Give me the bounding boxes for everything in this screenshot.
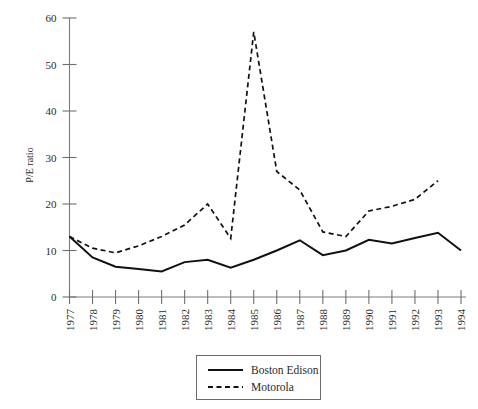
x-axis-tick-label: 1991 <box>386 309 398 331</box>
legend-label-boston-edison: Boston Edison <box>251 364 319 376</box>
y-axis-tick-label: 0 <box>51 291 57 303</box>
x-axis-tick-label: 1978 <box>87 309 99 332</box>
x-axis-tick-label: 1994 <box>455 309 467 332</box>
chart-canvas: 0102030405060 19771978197919801981198219… <box>0 0 478 409</box>
series-line-boston-edison <box>70 233 462 272</box>
y-axis-tick-label: 50 <box>46 59 58 71</box>
x-axis-tick-label: 1985 <box>248 309 260 332</box>
x-axis-tick-label: 1989 <box>340 309 352 332</box>
series-line-motorola <box>70 32 438 253</box>
x-axis-tick-label: 1980 <box>133 309 145 332</box>
x-axis-tick-label: 1983 <box>202 309 214 332</box>
pe-ratio-line-chart: 0102030405060 19771978197919801981198219… <box>0 0 478 409</box>
legend: Boston Edison Motorola <box>197 356 321 400</box>
x-axis-tick-label: 1977 <box>64 309 76 332</box>
y-axis-title: P/E ratio <box>24 147 35 182</box>
x-axis-tick-label: 1993 <box>432 309 444 332</box>
y-axis-tick-label: 30 <box>46 152 58 164</box>
x-axis-tick-label: 1979 <box>110 309 122 332</box>
y-axis-tick-label: 10 <box>46 245 58 257</box>
x-axis-tick-label: 1990 <box>363 309 375 332</box>
x-axis-tick-label: 1982 <box>179 309 191 331</box>
y-axis-tick-labels: 0102030405060 <box>46 12 58 303</box>
x-axis-tick-label: 1984 <box>225 309 237 332</box>
x-axis-tick-label: 1987 <box>294 309 306 332</box>
x-axis-tick-label: 1992 <box>409 309 421 331</box>
y-axis-tick-label: 60 <box>46 12 58 24</box>
x-axis-tick-labels: 1977197819791980198119821983198419851986… <box>64 309 468 332</box>
x-axis-tick-label: 1986 <box>271 309 283 332</box>
y-axis-tick-label: 40 <box>46 105 58 117</box>
legend-label-motorola: Motorola <box>251 381 294 393</box>
x-axis-tick-label: 1981 <box>156 309 168 331</box>
x-axis-tick-label: 1988 <box>317 309 329 332</box>
y-axis-tick-label: 20 <box>46 198 58 210</box>
